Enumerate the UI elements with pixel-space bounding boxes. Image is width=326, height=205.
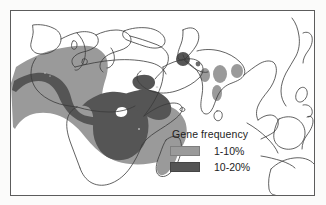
legend-item-low: 1-10% bbox=[170, 143, 278, 158]
coastline-sulawesi bbox=[302, 116, 313, 149]
shading-arabia-high bbox=[132, 75, 155, 91]
coastline-korea-japan bbox=[303, 32, 312, 63]
figure-container: Gene frequency 1-10% 10-20% bbox=[0, 0, 326, 205]
legend-label-low: 1-10% bbox=[214, 145, 244, 157]
shading-india-east-low bbox=[231, 64, 243, 78]
coastline-greece bbox=[107, 48, 114, 68]
legend-item-high: 10-20% bbox=[170, 159, 278, 174]
legend-swatch-high bbox=[170, 162, 200, 172]
coastline-philippines bbox=[296, 87, 308, 102]
shading-india-south-low bbox=[212, 85, 222, 101]
shading-india-central-low bbox=[213, 65, 227, 83]
coastline-indochina bbox=[244, 61, 276, 120]
coastline-sri-lanka bbox=[214, 111, 222, 121]
coastline-philippines-south bbox=[303, 105, 312, 117]
coastline-turkey-levant bbox=[130, 36, 168, 79]
legend-label-high: 10-20% bbox=[214, 161, 250, 173]
map-frame: Gene frequency 1-10% 10-20% bbox=[10, 10, 315, 196]
map-legend: Gene frequency 1-10% 10-20% bbox=[170, 128, 278, 174]
legend-swatch-low bbox=[170, 146, 200, 156]
legend-title: Gene frequency bbox=[170, 128, 278, 140]
